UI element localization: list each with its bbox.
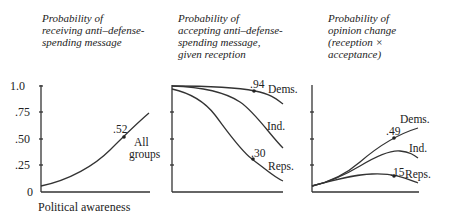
y-tick-075: .75 [15, 105, 30, 119]
annotation-052: .52 [113, 123, 128, 135]
panel-2-reps-line [172, 89, 283, 181]
y-tick-050: .50 [15, 132, 30, 146]
panel-2-ind-line [172, 86, 283, 148]
y-tick-0: 0 [27, 185, 33, 199]
label-dems-3: Dems. [400, 113, 430, 125]
label-ind-2: Ind. [267, 120, 285, 132]
chart-canvas: 1.0 .75 .50 .25 0 .52 All groups .94 Dem… [0, 0, 452, 218]
label-reps-2: Reps. [268, 160, 294, 173]
label-groups: groups [129, 148, 161, 161]
label-reps-3: Reps. [405, 168, 431, 181]
x-axis-label: Political awareness [38, 200, 130, 215]
y-tick-1: 1.0 [10, 79, 25, 93]
annotation-049: .49 [386, 125, 401, 137]
label-dems-2: Dems. [268, 83, 298, 95]
panel-1-point-marker [122, 135, 126, 139]
label-ind-3: Ind. [409, 142, 427, 154]
annotation-030: .30 [251, 147, 266, 159]
y-tick-025: .25 [15, 158, 30, 172]
annotation-094: .94 [250, 78, 265, 90]
annotation-015: .15 [390, 166, 405, 178]
label-all: All [134, 136, 149, 148]
